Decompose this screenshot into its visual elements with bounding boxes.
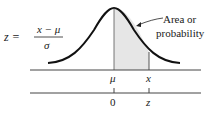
annotation-line-2: probability	[156, 27, 205, 39]
formula-numerator: x − μ	[36, 23, 61, 35]
tick-label-z: z	[145, 96, 151, 108]
tick-label-zero: 0	[110, 96, 116, 108]
shaded-area	[114, 8, 149, 70]
formula-denominator: σ	[44, 39, 50, 51]
formula-lhs: z =	[3, 30, 20, 44]
annotation-line-1: Area or	[163, 13, 197, 25]
tick-label-x: x	[145, 72, 151, 84]
tick-label-mu: μ	[109, 72, 116, 84]
arrow-head-icon	[136, 22, 141, 27]
annotation-arrow	[138, 18, 163, 25]
normal-curve-diagram: z = x − μ σ Area or probability μ x 0 z	[0, 0, 211, 114]
